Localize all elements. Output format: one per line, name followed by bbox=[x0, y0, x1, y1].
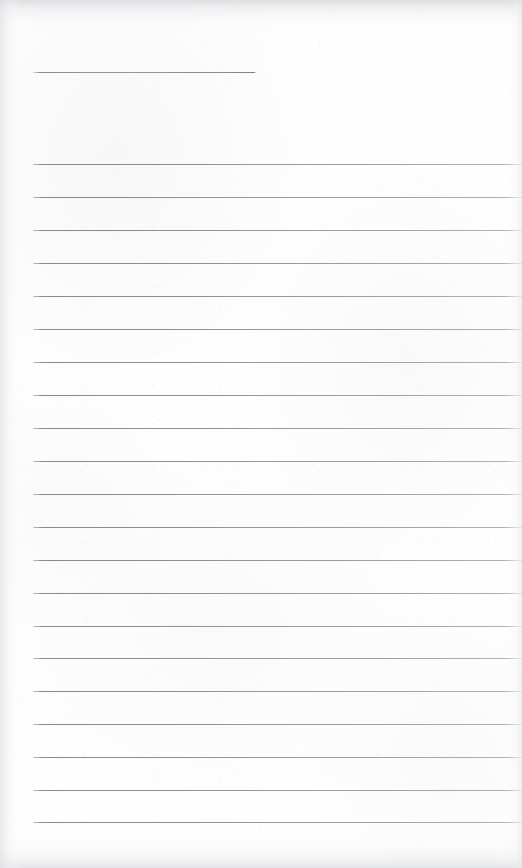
ruled-line bbox=[33, 757, 522, 758]
ruled-line bbox=[33, 691, 522, 692]
header-rule bbox=[33, 72, 256, 73]
ruled-line bbox=[33, 494, 522, 495]
ruled-lines-group bbox=[0, 0, 522, 868]
ruled-line bbox=[33, 822, 522, 823]
ruled-line bbox=[33, 593, 522, 594]
ruled-line bbox=[33, 626, 522, 627]
ruled-line bbox=[33, 197, 522, 198]
ruled-line bbox=[33, 296, 522, 297]
ruled-line bbox=[33, 164, 522, 165]
ruled-line bbox=[33, 724, 522, 725]
ruled-line bbox=[33, 560, 522, 561]
ruled-line bbox=[33, 329, 522, 330]
ruled-line bbox=[33, 527, 522, 528]
ruled-line bbox=[33, 263, 522, 264]
scanned-page bbox=[0, 0, 522, 868]
ruled-line bbox=[33, 790, 522, 791]
ruled-line bbox=[33, 461, 522, 462]
ruled-line bbox=[33, 395, 522, 396]
ruled-line bbox=[33, 658, 522, 659]
ruled-line bbox=[33, 362, 522, 363]
ruled-line bbox=[33, 428, 522, 429]
ruled-line bbox=[33, 230, 522, 231]
